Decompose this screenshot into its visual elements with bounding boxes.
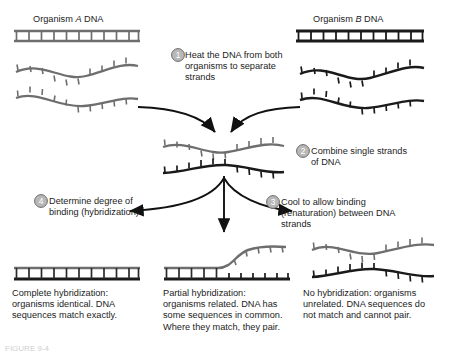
- step-1-number: 1: [176, 50, 181, 60]
- outcome-none-strands: [312, 238, 434, 283]
- organism-a-label-prefix: Organism: [33, 14, 75, 24]
- outcome-none-caption: No hybridization: organisms unrelated. D…: [303, 288, 439, 322]
- outcome-partial-caption: Partial hybridization: organisms related…: [163, 288, 289, 333]
- organism-b-label: Organism B DNA: [313, 14, 383, 25]
- organism-a-label-suffix: DNA: [82, 14, 104, 24]
- converge-arrows: [138, 107, 300, 132]
- outcome-complete-duplex: [14, 268, 140, 279]
- outcome-complete-caption: Complete hybridization: organisms identi…: [12, 288, 146, 322]
- combined-strands: [163, 137, 284, 179]
- step-1-text: Heat the DNA from both organisms to sepa…: [185, 50, 297, 84]
- step-3-number: 3: [271, 197, 276, 207]
- step-badge-4: 4: [35, 195, 48, 208]
- organism-b-single-strands: [300, 60, 424, 115]
- organism-b-label-suffix: DNA: [362, 14, 384, 24]
- step-4-number: 4: [39, 196, 44, 206]
- outcome-partial-duplex: [164, 246, 290, 279]
- step-badge-2: 2: [297, 145, 310, 158]
- organism-a-single-strands: [16, 58, 138, 113]
- figure-caption: FIGURE 9-4: [5, 344, 155, 353]
- organism-b-label-prefix: Organism: [313, 14, 355, 24]
- step-badge-3: 3: [267, 196, 280, 209]
- step-badge-1: 1: [172, 49, 185, 62]
- step-3-text: Cool to allow binding (renaturation) bet…: [281, 197, 401, 231]
- organism-b-duplex: [296, 31, 424, 41]
- organism-a-label: Organism A DNA: [33, 14, 103, 25]
- step-4-text: Determine degree of binding (hybridizati…: [49, 196, 159, 218]
- step-2-text: Combine single strands of DNA: [311, 146, 417, 168]
- organism-a-duplex: [14, 31, 140, 41]
- step-2-number: 2: [301, 146, 306, 156]
- dna-hybridization-figure: 1 2 3 4 Organism A DNA Organism B DNA He…: [0, 0, 450, 358]
